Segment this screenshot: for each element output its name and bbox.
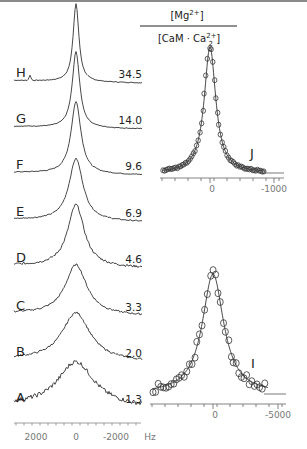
spectrum-label-a: A (16, 390, 25, 405)
left-x-axis: 20000-2000Hz (14, 423, 156, 442)
panel-j: J0-1000 (160, 46, 287, 194)
data-point (262, 380, 268, 387)
panel-label-i: I (251, 356, 255, 371)
panel-tick-label: -5000 (265, 410, 291, 420)
stacked-spectra: H34.5G14.0F9.6E6.9D4.6C3.3B2.0A1.3 (14, 4, 142, 405)
spectrum-ratio-d: 4.6 (125, 253, 142, 265)
panel-tick-label: -1000 (261, 184, 287, 194)
spectrum-trace-c (14, 264, 142, 315)
panel-tick-label: 0 (209, 184, 215, 194)
spectrum-ratio-c: 3.3 (125, 301, 142, 313)
spectrum-label-g: G (16, 111, 26, 126)
spectrum-label-b: B (16, 344, 25, 359)
spectrum-label-e: E (16, 204, 24, 219)
spectrum-label-f: F (16, 157, 23, 172)
spectrum-label-h: H (16, 65, 26, 80)
spectrum-ratio-b: 2.0 (125, 347, 142, 359)
left-axis-tick-label: 0 (73, 432, 79, 442)
panel-label-j: J (249, 146, 254, 161)
panel-i: I0-5000 (150, 267, 291, 420)
data-point (184, 368, 190, 375)
panel-tick-label: 0 (212, 410, 218, 420)
spectrum-ratio-h: 34.5 (119, 68, 142, 80)
header-numerator: [Mg2+] (170, 9, 203, 21)
spectrum-trace-d (14, 204, 142, 267)
spectrum-trace-a (14, 361, 142, 405)
data-point (226, 337, 232, 344)
spectrum-trace-f (14, 102, 142, 175)
fit-curve (152, 274, 268, 389)
spectrum-ratio-f: 9.6 (125, 160, 142, 172)
ratio-header: [Mg2+] [CaM · Ca2+2 ] (140, 9, 237, 48)
spectrum-label-c: C (16, 298, 25, 313)
left-axis-tick-label: -2000 (103, 432, 129, 442)
nmr-figure: [Mg2+] [CaM · Ca2+2 ] H34.5G14.0F9.6E6.9… (0, 0, 307, 449)
spectrum-ratio-a: 1.3 (125, 393, 142, 405)
spectrum-ratio-g: 14.0 (119, 114, 142, 126)
spectrum-label-d: D (16, 250, 26, 265)
data-point (194, 338, 200, 345)
spectrum-ratio-e: 6.9 (125, 207, 142, 219)
spectrum-trace-b (14, 312, 142, 360)
left-axis-tick-label: 2000 (25, 432, 48, 442)
spectrum-trace-e (14, 158, 142, 221)
axis-unit-label: Hz (144, 432, 156, 442)
